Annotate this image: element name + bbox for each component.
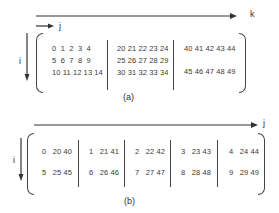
divider — [170, 140, 171, 187]
block-b2-row2: 6 26 46 — [89, 168, 119, 177]
block-b5-row1: 4 24 44 — [229, 147, 259, 156]
block-a2-row3: 30 31 32 33 34 — [117, 68, 168, 77]
right-bracket — [258, 133, 265, 195]
block-a2-row2: 25 26 27 28 29 — [117, 56, 168, 65]
block-a3-row3: 45 46 47 48 49 — [184, 67, 235, 76]
divider — [107, 40, 108, 90]
block-b4-row1: 3 23 43 — [181, 147, 211, 156]
axis-j-label: j — [59, 21, 61, 31]
divider — [78, 140, 79, 187]
divider — [217, 140, 218, 187]
block-a1-row2: 5 6 7 8 9 — [52, 56, 91, 65]
arrows-b-icon — [0, 105, 279, 213]
axis-i-label-b: i — [13, 155, 15, 165]
block-a1-row3: 10 11 12 13 14 — [52, 68, 103, 77]
divider — [124, 140, 125, 187]
block-a2-row1: 20 21 22 23 24 — [117, 44, 168, 53]
caption-a: (a) — [123, 92, 134, 102]
block-a3-row1: 40 41 42 43 44 — [184, 44, 235, 53]
caption-b: (b) — [124, 196, 135, 206]
block-b2-row1: 1 21 41 — [89, 147, 119, 156]
block-b5-row2: 9 29 49 — [229, 168, 259, 177]
block-a1-row1: 0 1 2 3 4 — [52, 44, 91, 53]
block-b3-row2: 7 27 47 — [135, 168, 165, 177]
right-bracket — [239, 33, 246, 93]
axis-i-label: i — [19, 56, 21, 66]
left-bracket — [27, 133, 34, 195]
divider — [173, 40, 174, 90]
block-b1-row2: 5 25 45 — [42, 168, 72, 177]
left-bracket — [36, 33, 43, 93]
axis-k-label: k — [250, 9, 255, 19]
block-b1-row1: 0 20 40 — [42, 147, 72, 156]
axis-j-label-b: j — [263, 118, 265, 128]
block-b4-row2: 8 28 48 — [181, 168, 211, 177]
block-b3-row1: 2 22 42 — [135, 147, 165, 156]
